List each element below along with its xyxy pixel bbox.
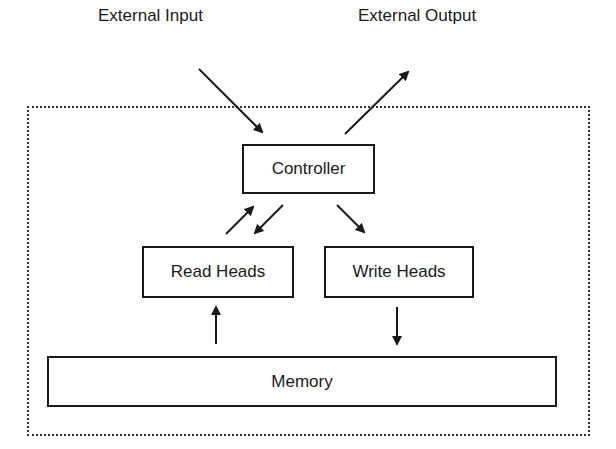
arrows-layer: [0, 0, 616, 449]
arrow-input-to-controller: [199, 69, 262, 132]
arrow-controller-to-output: [345, 72, 408, 134]
arrow-controller-to-write: [337, 205, 364, 232]
arrow-controller-to-read: [255, 205, 283, 233]
arrow-read-to-controller: [226, 207, 253, 234]
